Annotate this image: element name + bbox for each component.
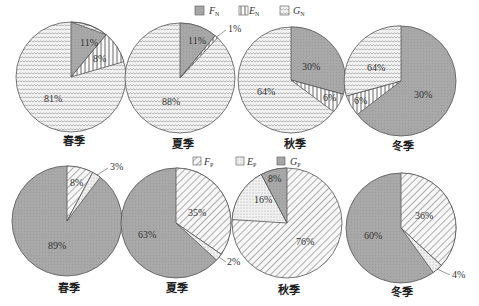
svg-text:35%: 35% [188,207,206,218]
svg-text:30%: 30% [414,89,432,100]
svg-text:秋季: 秋季 [278,283,301,297]
svg-text:GN: GN [293,5,305,17]
legend-item-f-p: FP [193,156,214,168]
svg-text:6%: 6% [323,92,336,103]
pie-top-spring: 11% 8% 81% 春季 [16,22,126,148]
legend-item-e-n: EN [239,5,260,17]
legend-swatch-dotted [236,157,244,165]
pie-top-summer: 11% 1% 88% 夏季 [125,23,241,151]
svg-text:春季: 春季 [63,134,86,148]
chart-canvas: FN EN GN 11% 8% 81% 春季 11% 1% 88% 夏季 [0,0,479,306]
svg-text:8%: 8% [93,53,106,64]
pie-top-autumn: 30% 6% 64% 秋季 [238,27,345,151]
legend-top: FN EN GN [195,5,305,17]
svg-text:夏季: 夏季 [172,137,195,151]
svg-text:63%: 63% [138,229,156,240]
legend-swatch-diagonal [193,157,201,165]
legend-item-g-n: GN [280,5,305,17]
svg-text:11%: 11% [188,35,206,46]
legend-swatch-vertical-lines [239,6,248,15]
svg-text:81%: 81% [44,93,62,104]
legend-bottom: FP EP GP [193,156,301,168]
svg-text:88%: 88% [162,96,180,107]
svg-text:4%: 4% [452,269,465,280]
pie-bottom-autumn: 8% 16% 76% 秋季 [232,168,342,297]
pie-bottom-winter: 36% 4% 60% 冬季 [346,173,465,299]
svg-text:夏季: 夏季 [166,281,189,295]
svg-text:60%: 60% [364,230,382,241]
svg-text:GP: GP [290,156,301,168]
pie-top-winter: 64% 6% 30% 冬季 [344,26,456,153]
svg-text:冬季: 冬季 [392,139,415,153]
svg-text:64%: 64% [367,62,385,73]
svg-text:36%: 36% [415,210,433,221]
svg-text:EN: EN [248,5,260,17]
svg-text:EP: EP [246,156,257,168]
legend-item-f-n: FN [195,5,220,17]
svg-text:76%: 76% [296,236,314,247]
svg-text:89%: 89% [48,240,66,251]
pie-bottom-spring: 8% 3% 89% 春季 [12,161,123,295]
svg-text:2%: 2% [227,256,240,267]
svg-text:8%: 8% [268,173,281,184]
legend-swatch-gray [277,157,285,165]
legend-item-g-p: GP [277,156,301,168]
pie-chart-figure: FN EN GN 11% 8% 81% 春季 11% 1% 88% 夏季 [0,0,479,306]
svg-text:秋季: 秋季 [284,137,307,151]
svg-text:6%: 6% [354,95,367,106]
legend-item-e-p: EP [236,156,257,168]
svg-text:16%: 16% [254,194,272,205]
svg-text:3%: 3% [110,161,123,172]
legend-swatch-gray [195,6,204,15]
svg-text:FN: FN [208,5,220,17]
svg-text:FP: FP [203,156,214,168]
svg-text:冬季: 冬季 [391,285,414,299]
svg-text:8%: 8% [70,177,83,188]
svg-text:30%: 30% [302,61,320,72]
legend-swatch-wavy [280,6,289,15]
svg-text:1%: 1% [228,23,241,34]
pie-bottom-summer: 35% 2% 63% 夏季 [121,168,240,295]
svg-text:64%: 64% [257,86,275,97]
svg-text:11%: 11% [80,37,98,48]
svg-text:春季: 春季 [58,281,81,295]
